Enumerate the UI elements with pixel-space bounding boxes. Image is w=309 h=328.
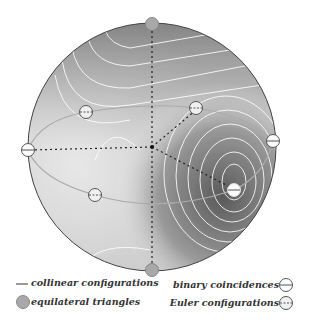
- equilateral-point-top: [146, 18, 159, 31]
- collinear-legend-icon: [16, 283, 28, 285]
- equilateral-point-bottom: [146, 264, 159, 277]
- legend-collinear: collinear configurations: [31, 277, 159, 288]
- legend-equilateral: equilateral triangles: [31, 296, 140, 307]
- legend-euler: Euler configurations: [170, 297, 279, 308]
- legend-binary: binary coincidences: [173, 279, 279, 290]
- equilateral-legend-icon: [17, 296, 30, 309]
